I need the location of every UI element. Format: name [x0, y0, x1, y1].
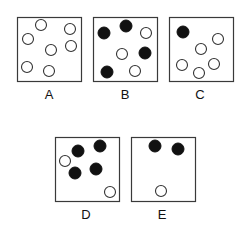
filled-circle-icon — [101, 66, 113, 78]
hollow-circle-icon — [23, 34, 34, 45]
filled-circle-icon — [69, 167, 81, 179]
hollow-circle-icon — [105, 187, 116, 198]
filled-circle-icon — [149, 140, 161, 152]
option-label-d: D — [76, 208, 96, 222]
option-box-d — [56, 138, 120, 202]
hollow-circle-icon — [130, 66, 141, 77]
filled-circle-icon — [72, 145, 84, 157]
hollow-circle-icon — [46, 45, 57, 56]
option-label-e: E — [152, 208, 172, 222]
hollow-circle-icon — [196, 44, 207, 55]
option-box-c — [170, 18, 234, 82]
option-label-a: A — [39, 88, 59, 102]
hollow-circle-icon — [65, 24, 76, 35]
filled-circle-icon — [90, 163, 102, 175]
option-box-e — [132, 138, 196, 202]
hollow-circle-icon — [141, 28, 152, 39]
hollow-circle-icon — [22, 62, 33, 73]
option-label-c: C — [190, 88, 210, 102]
hollow-circle-icon — [44, 66, 55, 77]
hollow-circle-icon — [209, 59, 220, 70]
filled-circle-icon — [172, 143, 184, 155]
option-box-b — [94, 18, 158, 82]
filled-circle-icon — [139, 47, 151, 59]
hollow-circle-icon — [60, 156, 71, 167]
filled-circle-icon — [177, 26, 189, 38]
option-label-b: B — [115, 88, 135, 102]
hollow-circle-icon — [194, 68, 205, 79]
hollow-circle-icon — [177, 60, 188, 71]
figure-canvas — [0, 0, 246, 230]
hollow-circle-icon — [66, 41, 77, 52]
hollow-circle-icon — [156, 186, 167, 197]
hollow-circle-icon — [213, 34, 224, 45]
filled-circle-icon — [98, 27, 110, 39]
filled-circle-icon — [120, 20, 132, 32]
filled-circle-icon — [94, 140, 106, 152]
hollow-circle-icon — [117, 49, 128, 60]
option-box-a — [18, 18, 82, 82]
hollow-circle-icon — [36, 20, 47, 31]
